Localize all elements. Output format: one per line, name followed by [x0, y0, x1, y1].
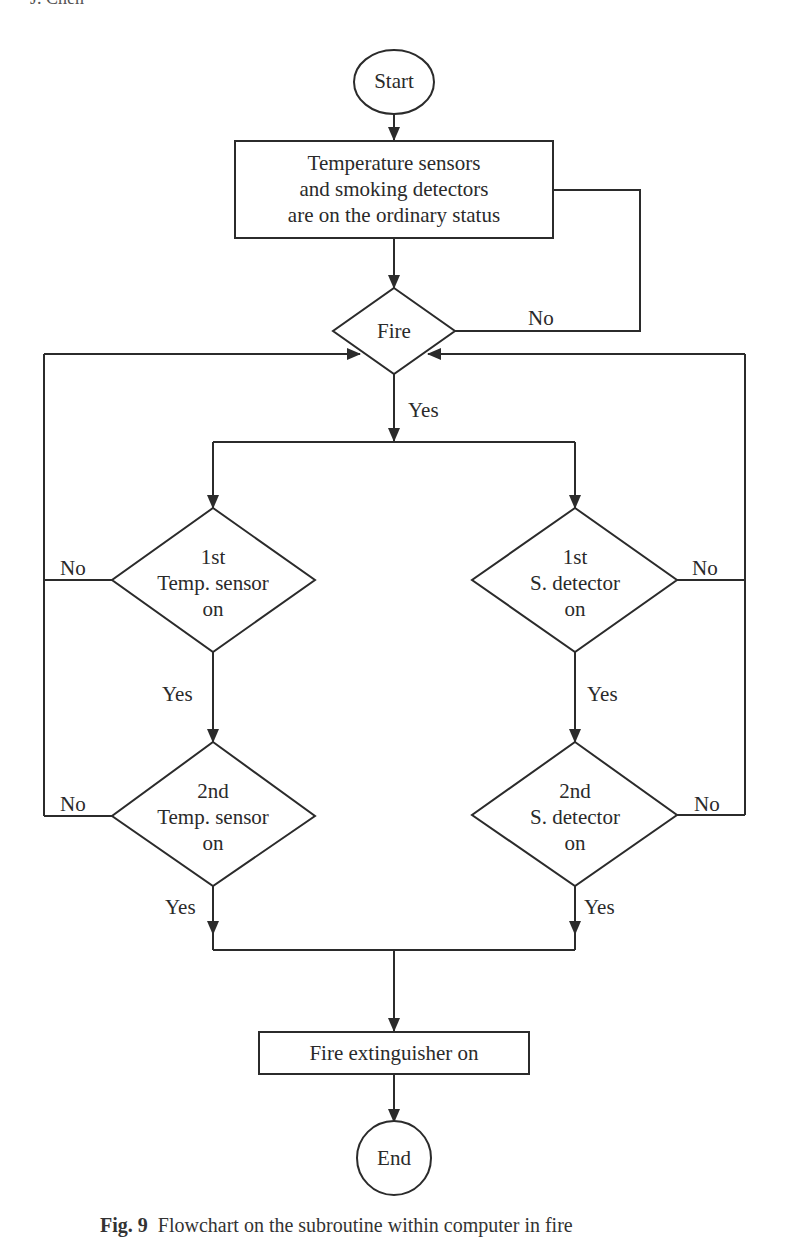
- initial-status-text: Temperature sensors and smoking detector…: [235, 150, 553, 228]
- temp2-line-2: Temp. sensor: [133, 804, 293, 830]
- end-label: End: [357, 1145, 431, 1171]
- smoke2-line-1: 2nd: [495, 778, 655, 804]
- temp1-no-label: No: [60, 556, 86, 580]
- fire-yes-label: Yes: [408, 398, 439, 422]
- initial-status-line-1: Temperature sensors: [235, 150, 553, 176]
- extinguisher-label: Fire extinguisher on: [259, 1040, 529, 1066]
- smoke2-line-3: on: [495, 830, 655, 856]
- temp2-line-3: on: [133, 830, 293, 856]
- temp1-yes-label: Yes: [162, 682, 193, 706]
- temp1-line-3: on: [133, 596, 293, 622]
- smoke2-no-label: No: [694, 792, 720, 816]
- smoke1-yes-label: Yes: [587, 682, 618, 706]
- smoke2-text: 2nd S. detector on: [495, 778, 655, 856]
- temp1-text: 1st Temp. sensor on: [133, 544, 293, 622]
- smoke1-line-3: on: [495, 596, 655, 622]
- figure-caption: Fig. 9 Flowchart on the subroutine withi…: [100, 1214, 573, 1237]
- smoke1-no-label: No: [692, 556, 718, 580]
- temp2-text: 2nd Temp. sensor on: [133, 778, 293, 856]
- initial-status-line-3: are on the ordinary status: [235, 202, 553, 228]
- temp2-line-1: 2nd: [133, 778, 293, 804]
- caption-text: Flowchart on the subroutine within compu…: [158, 1214, 573, 1236]
- smoke1-line-2: S. detector: [495, 570, 655, 596]
- smoke1-text: 1st S. detector on: [495, 544, 655, 622]
- initial-status-line-2: and smoking detectors: [235, 176, 553, 202]
- smoke2-line-2: S. detector: [495, 804, 655, 830]
- smoke1-line-1: 1st: [495, 544, 655, 570]
- smoke2-yes-label: Yes: [584, 895, 615, 919]
- temp1-line-1: 1st: [133, 544, 293, 570]
- fire-no-label: No: [528, 306, 554, 330]
- caption-prefix: Fig. 9: [100, 1214, 148, 1236]
- fire-label: Fire: [344, 318, 444, 344]
- temp1-line-2: Temp. sensor: [133, 570, 293, 596]
- start-label: Start: [354, 68, 434, 94]
- temp2-yes-label: Yes: [165, 895, 196, 919]
- temp2-no-label: No: [60, 792, 86, 816]
